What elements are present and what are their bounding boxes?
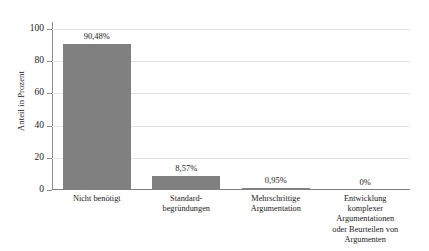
bar-value-label: 90,48% (52, 32, 142, 41)
category-label-line: oder Beurteilen von (309, 225, 421, 235)
gridline (52, 29, 410, 30)
y-tick-label: 80 (4, 56, 44, 66)
bar (63, 44, 131, 190)
category-label-line: Entwicklung (309, 194, 421, 204)
category-label-line: komplexer (309, 204, 421, 214)
bar-value-label: 0,95% (231, 176, 321, 185)
y-tick-mark (47, 190, 52, 191)
category-label-line: Argumentationen (309, 214, 421, 224)
bar (242, 188, 310, 190)
bar (152, 176, 220, 190)
category-label-line: Argumenten (309, 235, 421, 245)
bar-chart: Anteil in Prozent 020406080100 Nicht ben… (0, 0, 429, 251)
y-tick-label: 100 (4, 24, 44, 34)
category-label: EntwicklungkomplexerArgumentationenoder … (309, 194, 421, 245)
y-tick-label: 20 (4, 153, 44, 163)
bar-value-label: 8,57% (141, 164, 231, 173)
y-tick-label: 0 (4, 185, 44, 195)
y-tick-label: 60 (4, 89, 44, 99)
bar-value-label: 0% (320, 178, 410, 187)
y-tick-label: 40 (4, 121, 44, 131)
